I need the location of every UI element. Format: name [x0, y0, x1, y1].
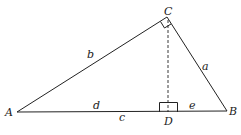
- vertex-label-d: D: [163, 115, 173, 128]
- side-label-a: a: [202, 60, 209, 73]
- side-label-d: d: [93, 99, 100, 112]
- right-angle-marker-c: [161, 22, 172, 29]
- side-b: [17, 17, 167, 112]
- side-label-e: e: [189, 99, 196, 112]
- vertex-label-b: B: [228, 105, 237, 118]
- triangle-diagram: C A B D b a d e c: [0, 0, 241, 135]
- side-a: [167, 17, 227, 111]
- vertex-label-a: A: [4, 106, 13, 119]
- side-label-b: b: [87, 48, 94, 61]
- right-angle-marker-d: [160, 103, 178, 113]
- vertex-label-c: C: [164, 5, 173, 18]
- side-label-c: c: [119, 111, 125, 124]
